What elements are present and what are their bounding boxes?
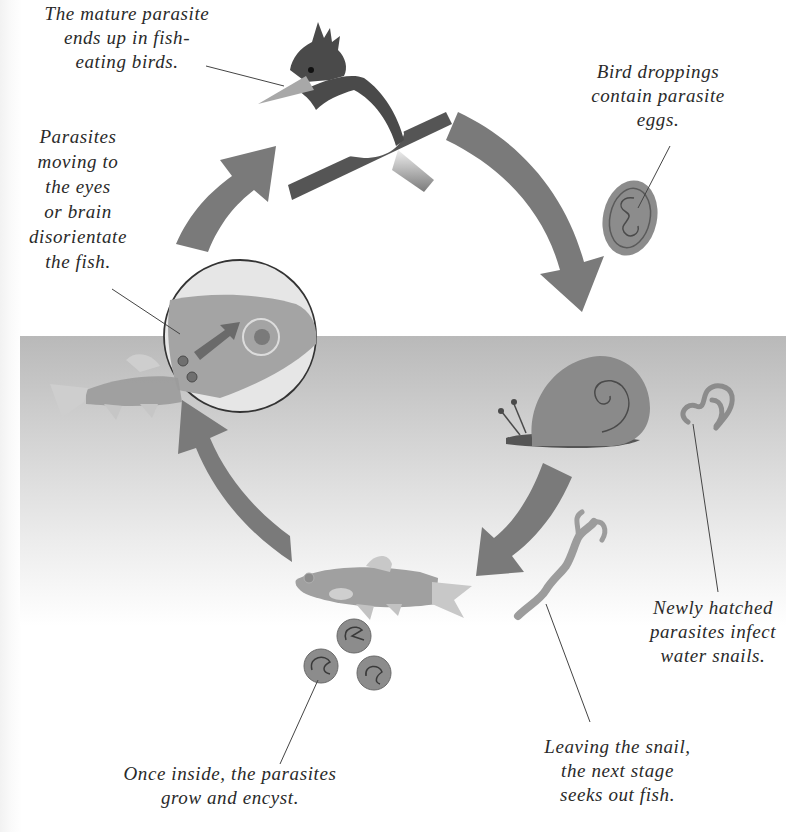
label-parasites-moving: Parasites moving to the eyes or brain di…: [18, 124, 138, 274]
arrow-fish-to-bird: [176, 146, 276, 252]
label-mature-parasite: The mature parasite ends up in fish- eat…: [22, 2, 232, 74]
label-leaving-snail: Leaving the snail, the next stage seeks …: [530, 735, 705, 807]
arrow-snail-to-fish: [476, 463, 572, 576]
fish-icon: [295, 556, 472, 620]
faint-fish-icon: [50, 354, 182, 420]
arrow-bird-to-droppings: [446, 112, 604, 312]
leader-line-cercaria: [546, 604, 590, 722]
parasite-egg-icon: [596, 175, 665, 261]
kingfisher-bird-icon: [258, 22, 452, 200]
water-snail-icon: [498, 356, 650, 448]
leader-line-larva: [693, 424, 718, 592]
label-newly-hatched: Newly hatched parasites infect water sna…: [638, 596, 788, 668]
label-once-inside: Once inside, the parasites grow and ency…: [95, 762, 365, 810]
magnified-fish-head-icon: [164, 260, 316, 412]
leader-line-cyst: [280, 680, 318, 764]
arrow-encyst-to-brain: [178, 400, 292, 562]
label-bird-droppings: Bird droppings contain parasite eggs.: [578, 60, 738, 132]
cyst-icon: [304, 619, 391, 690]
hatched-larva-icon: [683, 386, 732, 428]
